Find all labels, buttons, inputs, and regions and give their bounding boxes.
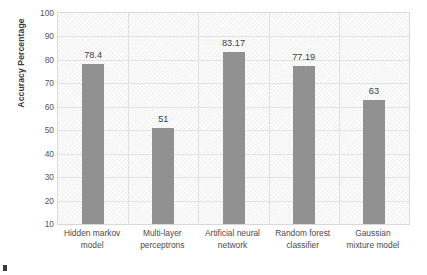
y-axis-tick-label: 80 [26, 55, 54, 65]
y-axis-tick-label: 90 [26, 31, 54, 41]
y-axis-tick-label: 100 [26, 8, 54, 18]
gridline-vertical [339, 13, 340, 224]
bar-value-label: 63 [369, 86, 379, 96]
bar [223, 52, 245, 224]
bar [152, 128, 174, 224]
category-label-line: mixture model [331, 240, 415, 252]
x-axis-category-label: Gaussianmixture model [331, 228, 415, 251]
bar-value-label: 83.17 [222, 38, 245, 48]
gridline-vertical [269, 13, 270, 224]
y-axis-tick-labels: 100908070605040302010 [26, 10, 54, 225]
y-axis-tick-label: 30 [26, 172, 54, 182]
x-axis-category-labels: Hidden markovmodelMulti-layerperceptrons… [57, 228, 410, 262]
gridline-vertical [198, 13, 199, 224]
bar [82, 64, 104, 224]
category-label-line: Gaussian [331, 228, 415, 240]
y-axis-tick-label: 40 [26, 149, 54, 159]
scan-artifact-mark [3, 265, 7, 271]
y-axis-tick-label: 70 [26, 78, 54, 88]
bar [293, 66, 315, 224]
bar-chart-figure: Accuracy Percentage 10090807060504030201… [0, 0, 427, 275]
bar-value-label: 51 [158, 114, 168, 124]
y-axis-tick-label: 50 [26, 125, 54, 135]
gridline-vertical [128, 13, 129, 224]
y-axis-tick-label: 20 [26, 196, 54, 206]
bar-value-label: 78.4 [84, 50, 102, 60]
plot-area: 78.45183.1777.1963 [57, 12, 410, 225]
bar-value-label: 77.19 [292, 52, 315, 62]
y-axis-tick-label: 60 [26, 102, 54, 112]
bar [363, 100, 385, 224]
gridline-horizontal [58, 36, 409, 37]
